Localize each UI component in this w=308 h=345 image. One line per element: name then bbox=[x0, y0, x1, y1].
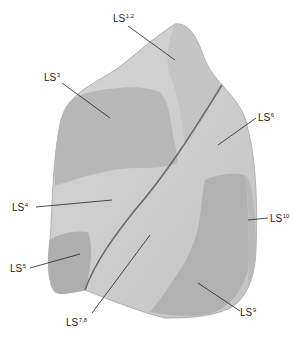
label-base: LS bbox=[270, 213, 282, 224]
label-superscript: 4 bbox=[25, 202, 28, 208]
label-superscript: 10 bbox=[283, 213, 290, 219]
label-superscript: 6 bbox=[271, 112, 274, 118]
label-superscript: 9 bbox=[253, 307, 256, 313]
label-superscript: 7,8 bbox=[79, 317, 87, 323]
label-superscript: 3 bbox=[57, 72, 60, 78]
label-ls3: LS3 bbox=[44, 72, 60, 83]
lung-illustration bbox=[0, 0, 308, 345]
label-base: LS bbox=[66, 317, 78, 328]
label-base: LS bbox=[113, 13, 125, 24]
label-ls10: LS10 bbox=[270, 213, 289, 224]
label-ls6: LS6 bbox=[258, 112, 274, 123]
label-base: LS bbox=[240, 307, 252, 318]
label-ls78: LS7,8 bbox=[66, 317, 87, 328]
label-superscript: 1,2 bbox=[126, 13, 134, 19]
label-base: LS bbox=[44, 72, 56, 83]
label-superscript: 5 bbox=[23, 263, 26, 269]
label-base: LS bbox=[12, 202, 24, 213]
label-ls4: LS4 bbox=[12, 202, 28, 213]
label-ls9: LS9 bbox=[240, 307, 256, 318]
label-ls12: LS1,2 bbox=[113, 13, 134, 24]
label-base: LS bbox=[10, 263, 22, 274]
segment-ls5 bbox=[48, 231, 91, 293]
label-base: LS bbox=[258, 112, 270, 123]
label-ls5: LS5 bbox=[10, 263, 26, 274]
